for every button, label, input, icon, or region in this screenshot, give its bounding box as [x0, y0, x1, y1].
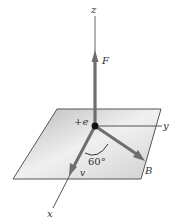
force-arrowhead: [92, 50, 99, 62]
angle-label: 60°: [88, 156, 106, 167]
velocity-label: v: [80, 168, 85, 178]
z-axis-label: z: [90, 4, 97, 15]
field-label: B: [144, 165, 152, 176]
force-label: F: [101, 55, 110, 66]
lorentz-force-diagram: z F +e y 60° B v x: [0, 0, 178, 219]
y-axis-label: y: [162, 120, 169, 131]
charge-label: +e: [74, 116, 88, 127]
x-axis-label: x: [47, 208, 53, 219]
charge-dot: [92, 123, 99, 130]
